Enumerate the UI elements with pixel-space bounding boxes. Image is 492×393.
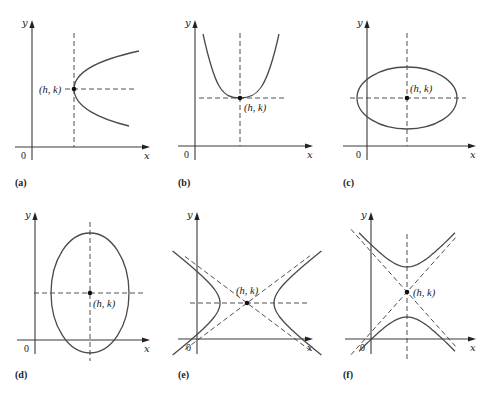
origin-label: 0 [24,343,29,354]
x-axis-arrow-icon [142,144,150,149]
x-axis-arrow-icon [468,336,476,341]
y-axis-arrow-icon [368,212,373,220]
y-axis-arrow-icon [192,20,197,28]
panel-label-e: (e) [178,369,189,381]
center-point-label: (h, k) [39,84,62,96]
center-point-dot [405,96,410,101]
center-point-label: (h, k) [410,83,433,95]
panel-label-b: (b) [178,177,190,189]
x-axis-label: x [144,343,150,354]
parabola-curve [74,51,139,126]
center-point-dot [238,96,243,101]
y-axis-label: y [184,17,191,28]
origin-label: 0 [356,149,361,160]
y-axis-arrow-icon [29,20,34,28]
panel-f: xy0(h, k)(f) [343,209,476,381]
x-axis-arrow-icon [468,143,476,148]
center-point-dot [88,291,93,296]
x-axis-arrow-icon [305,336,313,341]
y-axis-label: y [360,209,367,220]
panel-d: xy0(h, k)(d) [15,209,150,381]
y-axis-arrow-icon [364,20,369,28]
panel-e: xy0(h, k)(e) [173,209,322,381]
x-axis-label: x [307,149,313,160]
figure-canvas: xy0(h, k)(a)xy0(h, k)(b)xy0(h, k)(c)xy0(… [0,0,492,393]
x-axis-arrow-icon [305,143,313,148]
y-axis-arrow-icon [32,212,37,220]
x-axis-arrow-icon [142,337,150,342]
center-point-dot [72,87,77,92]
x-axis-label: x [470,149,476,160]
center-point-label: (h, k) [236,285,259,297]
center-point-label: (h, k) [93,298,116,310]
panel-label-a: (a) [15,177,27,189]
y-axis-label: y [356,17,363,28]
parabola-curve [203,34,279,98]
center-point-dot [405,290,410,295]
center-point-label: (h, k) [413,287,436,299]
panel-c: xy0(h, k)(c) [343,17,476,189]
y-axis-label: y [21,17,28,28]
origin-label: 0 [21,150,26,161]
center-point-dot [245,301,250,306]
x-axis-label: x [470,342,476,353]
origin-label: 0 [184,149,189,160]
center-point-label: (h, k) [244,102,267,114]
conic-sections-figure: xy0(h, k)(a)xy0(h, k)(b)xy0(h, k)(c)xy0(… [0,0,492,393]
y-axis-label: y [186,209,193,220]
panel-label-d: (d) [15,369,27,381]
panel-label-c: (c) [343,177,354,189]
x-axis-label: x [144,150,150,161]
panel-b: xy0(h, k)(b) [178,17,313,189]
panel-a: xy0(h, k)(a) [15,17,150,189]
panel-label-f: (f) [343,369,353,381]
y-axis-label: y [24,209,31,220]
y-axis-arrow-icon [194,212,199,220]
